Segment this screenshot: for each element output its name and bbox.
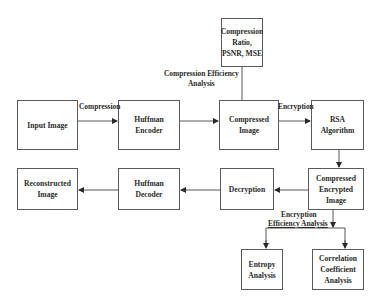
node-reconstructed-image: Reconstructed Image <box>17 168 78 210</box>
node-label: Reconstructed Image <box>23 178 73 200</box>
node-label: Entropy Analysis <box>243 259 281 281</box>
node-huffman-encoder: Huffman Encoder <box>118 100 180 150</box>
node-label: Huffman Decoder <box>120 178 178 200</box>
node-label: RSA Algorithm <box>320 114 356 136</box>
node-compression-metrics: Compression Ratio, PSNR, MSE <box>221 18 263 67</box>
node-label: Compressed Image <box>229 114 269 136</box>
node-label: Decryption <box>229 184 265 195</box>
node-label: Input Image <box>27 120 67 131</box>
node-entropy-analysis: Entropy Analysis <box>241 249 283 290</box>
node-label: Compression Ratio, PSNR, MSE <box>221 26 263 59</box>
edge-label-encryption-efficiency-2: Efficiency Analysis <box>268 219 328 229</box>
node-huffman-decoder: Huffman Decoder <box>118 168 180 210</box>
edge-label-compression-efficiency-2: Analysis <box>188 79 215 89</box>
edge-label-encryption: Encryption <box>278 102 314 112</box>
node-compressed-encrypted-image: Compressed Encrypted Image <box>308 168 364 210</box>
edge-label-compression-efficiency-1: Compression Efficiency <box>164 69 239 79</box>
node-correlation-analysis: Correlation Coefficient Analysis <box>312 249 364 290</box>
node-label: Compressed Encrypted Image <box>315 173 357 206</box>
node-label: Huffman Encoder <box>120 114 178 136</box>
node-compressed-image: Compressed Image <box>219 100 279 150</box>
edge-label-compression: Compression <box>79 102 120 112</box>
node-decryption: Decryption <box>220 168 274 210</box>
node-input-image: Input Image <box>17 100 78 150</box>
node-rsa-algorithm: RSA Algorithm <box>311 100 364 150</box>
node-label: Correlation Coefficient Analysis <box>316 253 360 286</box>
edge-branch-bar <box>266 228 345 247</box>
